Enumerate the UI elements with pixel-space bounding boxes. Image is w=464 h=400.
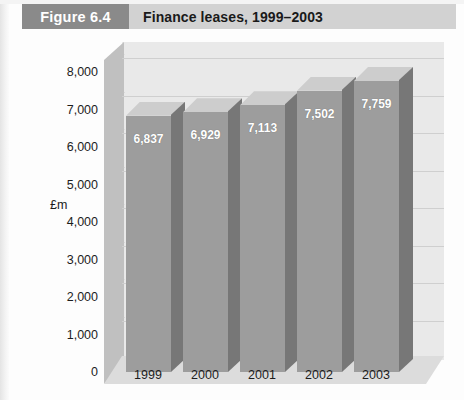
bar-value-label: 6,837 bbox=[126, 132, 171, 146]
bar-front-face bbox=[240, 105, 285, 372]
bar-value-label: 7,502 bbox=[297, 107, 342, 121]
x-axis-tick-label: 2000 bbox=[175, 368, 235, 382]
y-axis-tick-label: 1,000 bbox=[32, 329, 98, 341]
x-axis-tick-label: 1999 bbox=[118, 368, 178, 382]
y-axis-tick-label: 8,000 bbox=[32, 66, 98, 78]
y-axis-tick-label: 6,000 bbox=[32, 141, 98, 153]
y-axis-tick-label: 4,000 bbox=[32, 216, 98, 228]
plot-area: 6,8376,9297,1137,5027,759 bbox=[104, 30, 456, 400]
bar-front-face bbox=[126, 116, 171, 372]
figure-number-badge: Figure 6.4 bbox=[22, 4, 129, 29]
y-axis-tick-label: 7,000 bbox=[32, 104, 98, 116]
y-axis-tick-label: 3,000 bbox=[32, 254, 98, 266]
bar-value-label: 7,759 bbox=[354, 97, 399, 111]
bar bbox=[354, 67, 413, 372]
figure-header: Figure 6.4 Finance leases, 1999–2003 bbox=[22, 4, 456, 29]
x-axis-tick-label: 2001 bbox=[232, 368, 292, 382]
bar-front-face bbox=[297, 91, 342, 372]
bar-side-face bbox=[399, 67, 413, 372]
bar-value-label: 6,929 bbox=[183, 128, 228, 142]
bar-front-face bbox=[183, 112, 228, 372]
y-axis-tick-label: 2,000 bbox=[32, 291, 98, 303]
y-axis-tick-label: 0 bbox=[32, 366, 98, 378]
y-axis-tick-labels: 8,0007,0006,0005,0004,0003,0002,0001,000… bbox=[32, 30, 98, 400]
gridline bbox=[122, 58, 444, 59]
figure-title: Finance leases, 1999–2003 bbox=[143, 4, 323, 29]
y-axis-tick-label: 5,000 bbox=[32, 179, 98, 191]
bar-value-label: 7,113 bbox=[240, 121, 285, 135]
x-axis-tick-label: 2002 bbox=[289, 368, 349, 382]
bar-front-face bbox=[354, 81, 399, 372]
x-axis-tick-label: 2003 bbox=[346, 368, 406, 382]
plot-left-wall bbox=[104, 42, 124, 384]
bar-chart: £m 8,0007,0006,0005,0004,0003,0002,0001,… bbox=[0, 30, 464, 400]
